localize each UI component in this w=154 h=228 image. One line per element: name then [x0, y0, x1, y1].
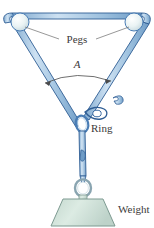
pegs-callout: Pegs — [25, 27, 129, 45]
figure-container: A Pegs Ring Weight — [0, 0, 154, 228]
rope-knot-eye — [93, 110, 101, 117]
rope-hook-tip — [113, 96, 123, 104]
right-rope-leg — [84, 22, 149, 120]
right-peg — [125, 13, 143, 31]
weight-label: Weight — [118, 203, 150, 215]
weight-ring-inner — [78, 182, 89, 194]
angle-label: A — [73, 58, 81, 70]
rope-clip — [80, 150, 85, 161]
pegs-leader-right — [96, 27, 129, 39]
pegs-rope-weight-diagram: A Pegs Ring Weight — [0, 0, 154, 228]
weight-block — [51, 199, 115, 226]
weight-group: Weight — [51, 179, 150, 226]
pegs-leader-left — [25, 27, 59, 39]
top-rope — [12, 13, 142, 19]
pegs-label: Pegs — [67, 33, 88, 45]
ring-label: Ring — [91, 122, 113, 134]
left-peg — [11, 13, 29, 31]
